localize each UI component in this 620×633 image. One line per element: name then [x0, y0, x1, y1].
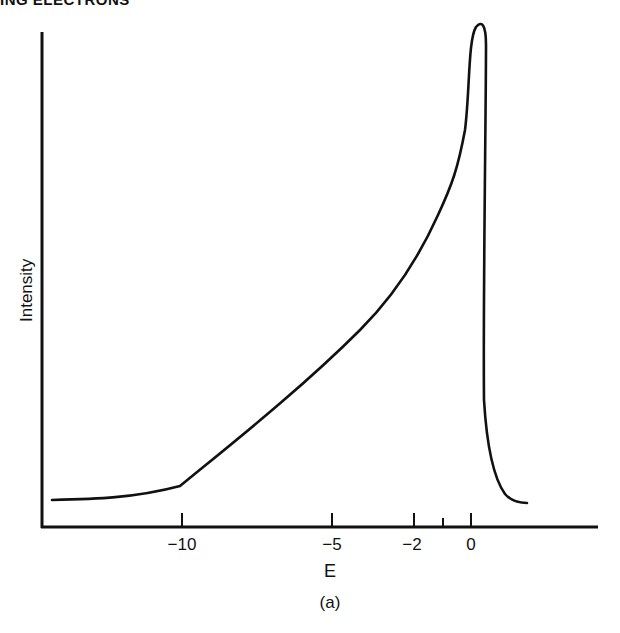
x-axis-ticks [182, 513, 471, 527]
x-tick-label-minus10: −10 [168, 535, 197, 555]
intensity-curve [52, 24, 527, 503]
figure-caption: (a) [320, 593, 341, 613]
chart-plot-area [0, 0, 620, 633]
x-tick-label-minus2: −2 [402, 535, 421, 555]
x-tick-label-0: 0 [466, 535, 475, 555]
x-tick-label-minus5: −5 [322, 535, 341, 555]
x-axis-title: E [324, 561, 336, 582]
y-axis-title: Intensity [17, 259, 37, 322]
